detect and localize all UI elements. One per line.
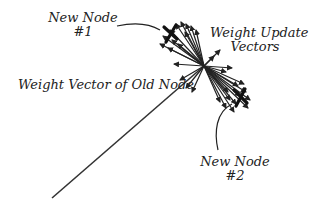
new-node-1-label-line1: New Node [48, 11, 118, 25]
new-node-1-label-line2: #1 [48, 25, 118, 39]
new-node-1-leader [117, 24, 160, 30]
new-node-2-cross-icon [234, 89, 247, 106]
new-node-2-label: New Node #2 [195, 155, 275, 183]
diagram-canvas: New Node #1 Weight Update Vectors Weight… [0, 0, 310, 211]
new-node-1-label: New Node #1 [48, 11, 118, 39]
new-node-1-cross-icon [164, 25, 177, 42]
weight-update-vector [204, 56, 214, 66]
new-node-2-leader [216, 104, 232, 150]
weight-update-label: Weight Update Vectors [210, 26, 300, 54]
old-node-vector-label: Weight Vector of Old Node [18, 78, 194, 92]
new-node-2-label-line1: New Node [195, 155, 275, 169]
weight-update-label-line1: Weight Update [210, 26, 300, 40]
weight-update-vector [204, 66, 248, 108]
new-node-2-label-line2: #2 [195, 169, 275, 183]
weight-update-label-line2: Vectors [210, 40, 300, 54]
